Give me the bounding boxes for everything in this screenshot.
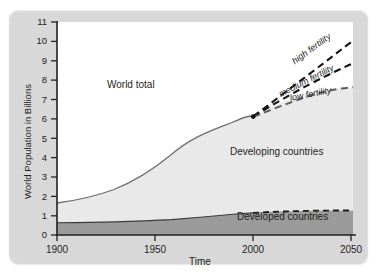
y-tick-label-1: 1	[31, 210, 47, 221]
x-axis-title: Time	[189, 256, 211, 267]
x-axis-ticks	[57, 235, 351, 241]
developing-countries-label: Developing countries	[230, 146, 323, 157]
y-tick-label-10: 10	[31, 35, 47, 46]
y-tick-label-11: 11	[31, 16, 47, 27]
y-tick-label-0: 0	[31, 229, 47, 240]
y-tick-label-7: 7	[31, 94, 47, 105]
developed-countries-label: Developed countries	[237, 211, 328, 222]
y-tick-label-4: 4	[31, 152, 47, 163]
y-tick-label-6: 6	[31, 113, 47, 124]
x-tick-label-2000: 2000	[233, 244, 273, 255]
y-tick-label-2: 2	[31, 191, 47, 202]
y-axis-ticks	[51, 22, 57, 235]
y-tick-label-8: 8	[31, 74, 47, 85]
y-axis-title: World Population in Billions	[22, 84, 33, 199]
y-tick-label-9: 9	[31, 55, 47, 66]
population-chart-figure: 11 10 9 8 7 6 5 4 3 2 1 0 1900 1950 2000…	[0, 0, 378, 280]
projection-origin-marker	[251, 114, 256, 119]
world-total-label: World total	[107, 79, 155, 90]
x-tick-label-1900: 1900	[37, 244, 77, 255]
x-tick-label-2050: 2050	[331, 244, 371, 255]
y-tick-label-5: 5	[31, 133, 47, 144]
y-tick-label-3: 3	[31, 171, 47, 182]
x-tick-label-1950: 1950	[135, 244, 175, 255]
